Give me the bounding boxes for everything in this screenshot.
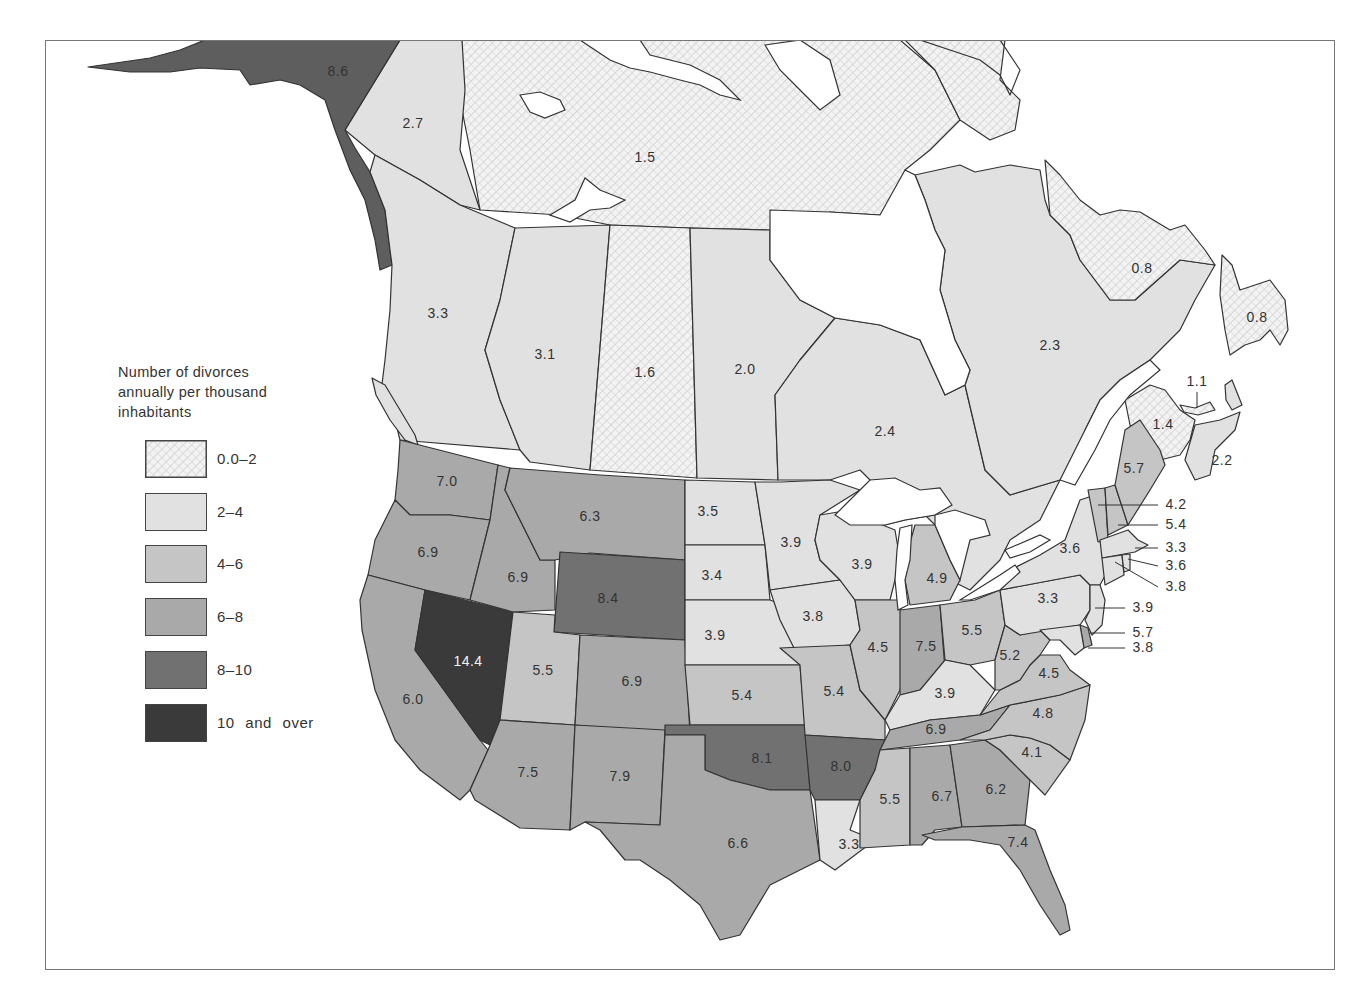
label-ohio: 5.5 [962,622,983,638]
label-kentucky: 3.9 [935,685,956,701]
label-prince-edward-island: 1.1 [1187,373,1208,389]
label-mississippi: 5.5 [880,791,901,807]
label-yukon: 2.7 [403,115,424,131]
legend-item-2-4: 2–4 [145,493,345,533]
label-louisiana: 3.3 [839,836,860,852]
legend-item-8-10: 8–10 [145,651,345,691]
label-utah: 5.5 [533,662,554,678]
region-rhode-island [1122,554,1130,572]
region-northwest-territories [460,40,960,230]
label-north-carolina: 4.8 [1033,705,1054,721]
region-wyoming [554,552,685,640]
legend-title-line-1: Number of divorces [118,362,338,382]
label-nebraska: 3.9 [705,627,726,643]
label-connecticut: 3.8 [1166,578,1187,594]
label-texas: 6.6 [728,835,749,851]
label-georgia: 6.2 [986,781,1007,797]
legend-item-4-6: 4–6 [145,545,345,585]
label-tennessee: 6.9 [926,721,947,737]
label-new-mexico: 7.9 [610,768,631,784]
label-northwest-territories: 1.5 [635,149,656,165]
label-oregon: 6.9 [418,544,439,560]
legend-swatch [145,651,207,689]
label-nevada: 14.4 [453,653,482,669]
label-florida: 7.4 [1008,834,1029,850]
label-massachusetts: 3.3 [1166,539,1187,555]
label-washington: 7.0 [437,473,458,489]
region-newfoundland [1220,255,1288,355]
label-illinois: 4.5 [868,639,889,655]
label-maryland: 3.8 [1133,639,1154,655]
legend-title: Number of divorces annually per thousand… [118,362,338,422]
label-new-jersey: 3.9 [1133,599,1154,615]
label-ontario: 2.4 [875,423,896,439]
label-pennsylvania: 3.3 [1038,590,1059,606]
legend-label: 10 and over [217,714,314,731]
legend-swatch [145,545,207,583]
legend-item-0-2: 0.0–2 [145,440,345,480]
label-new-york: 3.6 [1060,540,1081,556]
label-rhode-island: 3.6 [1166,557,1187,573]
legend-title-line-3: inhabitants [118,402,338,422]
region-cape-breton [1225,380,1242,410]
label-alaska: 8.6 [328,63,349,79]
label-new-hampshire: 5.4 [1166,516,1187,532]
label-wisconsin: 3.9 [852,556,873,572]
label-michigan: 4.9 [927,570,948,586]
label-idaho: 6.9 [508,569,529,585]
region-south-dakota [685,545,770,600]
label-west-virginia: 5.2 [1000,647,1021,663]
label-minnesota: 3.9 [781,534,802,550]
label-alabama: 6.7 [932,788,953,804]
legend-label: 0.0–2 [217,450,257,467]
label-california: 6.0 [403,691,424,707]
map-legend: Number of divorces annually per thousand… [118,362,338,422]
label-delaware: 5.7 [1133,624,1154,640]
label-montana: 6.3 [580,508,601,524]
label-arizona: 7.5 [518,764,539,780]
label-missouri: 5.4 [824,683,845,699]
legend-label: 4–6 [217,555,244,572]
label-alberta: 3.1 [535,346,556,362]
label-vermont: 4.2 [1166,496,1187,512]
label-saskatchewan: 1.6 [635,364,656,380]
label-manitoba: 2.0 [735,361,756,377]
label-south-carolina: 4.1 [1022,744,1043,760]
legend-item-6-8: 6–8 [145,598,345,638]
leader-rhode-island [1128,559,1158,566]
label-arkansas: 8.0 [831,758,852,774]
label-colorado: 6.9 [622,673,643,689]
label-british-columbia: 3.3 [428,305,449,321]
legend-swatch [145,704,207,742]
legend-swatch [145,493,207,531]
region-alaska [88,40,400,270]
legend-label: 2–4 [217,503,244,520]
label-nova-scotia: 2.2 [1212,452,1233,468]
legend-label: 6–8 [217,608,244,625]
legend-swatch [145,598,207,636]
legend-swatch-hatched [145,440,207,478]
legend-label: 8–10 [217,661,252,678]
label-oklahoma: 8.1 [752,750,773,766]
label-newfoundland: 0.8 [1247,309,1268,325]
region-connecticut [1102,555,1124,585]
label-labrador: 0.8 [1132,260,1153,276]
region-florida [922,825,1070,935]
label-iowa: 3.8 [803,608,824,624]
label-maine: 5.7 [1124,460,1145,476]
label-north-dakota: 3.5 [698,503,719,519]
legend-title-line-2: annually per thousand [118,382,338,402]
label-south-dakota: 3.4 [702,567,723,583]
label-kansas: 5.4 [732,687,753,703]
label-virginia: 4.5 [1039,665,1060,681]
label-indiana: 7.5 [916,638,937,654]
label-wyoming: 8.4 [598,590,619,606]
legend-item-10-plus: 10 and over [145,704,345,744]
label-quebec: 2.3 [1040,337,1061,353]
label-new-brunswick: 1.4 [1153,416,1174,432]
